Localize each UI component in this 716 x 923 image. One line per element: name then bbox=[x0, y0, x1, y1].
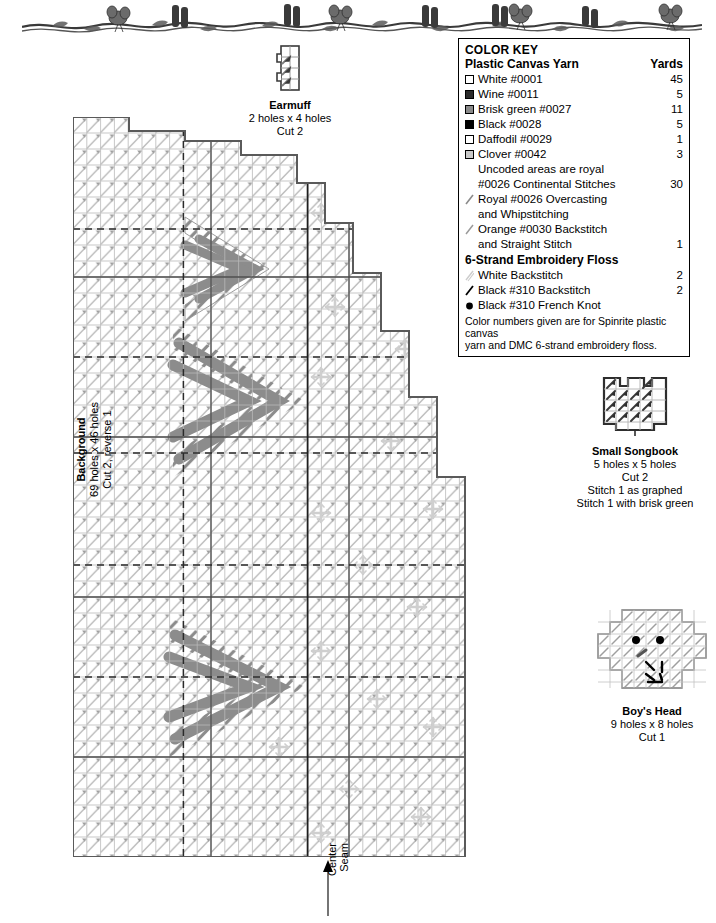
center-seam-line-2: Seam bbox=[338, 843, 350, 872]
key-label: Clover #0042 bbox=[478, 147, 677, 162]
key-label: Wine #0011 bbox=[478, 87, 677, 102]
key-label: White Backstitch bbox=[478, 268, 677, 283]
color-key-note-line2: yarn and DMC 6-strand embroidery floss. bbox=[465, 339, 683, 351]
earmuff-chart-icon bbox=[267, 42, 313, 94]
color-key-title: COLOR KEY bbox=[465, 43, 683, 57]
key-yards: 30 bbox=[670, 177, 683, 192]
center-seam-annotation: Center Seam bbox=[300, 858, 390, 922]
key-row-white: White #0001 45 bbox=[465, 72, 683, 87]
french-knot-eye-left bbox=[632, 636, 640, 644]
songbook-note-2: Stitch 1 with brisk green bbox=[560, 497, 710, 510]
key-label: Black #310 French Knot bbox=[478, 298, 683, 313]
vine-floral-border-icon bbox=[22, 0, 702, 38]
key-row-royal-overcasting-line2: and Whipstitching bbox=[465, 207, 683, 222]
background-size: 69 holes x 46 holes bbox=[88, 370, 101, 530]
boys-head-size: 9 holes x 8 holes bbox=[588, 718, 716, 731]
key-yards: 5 bbox=[677, 117, 683, 132]
songbook-title: Small Songbook bbox=[560, 445, 710, 458]
center-seam-label: Center Seam bbox=[326, 843, 350, 876]
yards-header: Yards bbox=[650, 57, 683, 72]
key-row-orange-backstitch-line2: and Straight Stitch 1 bbox=[465, 237, 683, 252]
background-chart-graph bbox=[73, 117, 473, 857]
key-row-uncoded-line1: Uncoded areas are royal bbox=[465, 162, 683, 177]
key-yards: 45 bbox=[670, 72, 683, 87]
boys-head-cut: Cut 1 bbox=[588, 731, 716, 744]
key-label: Uncoded areas are royal bbox=[478, 162, 683, 177]
color-key-note-line1: Color numbers given are for Spinrite pla… bbox=[465, 315, 683, 339]
key-yards: 2 bbox=[677, 283, 683, 298]
key-row-black-french-knot: Black #310 French Knot bbox=[465, 298, 683, 313]
color-key-note: Color numbers given are for Spinrite pla… bbox=[465, 315, 683, 351]
key-row-uncoded-line2: #0026 Continental Stitches 30 bbox=[465, 177, 683, 192]
key-row-black: Black #0028 5 bbox=[465, 117, 683, 132]
background-chart-label: Background 69 holes x 46 holes Cut 2, re… bbox=[75, 370, 114, 530]
boys-head-chart-icon bbox=[596, 604, 708, 700]
key-yards: 5 bbox=[677, 87, 683, 102]
key-row-wine: Wine #0011 5 bbox=[465, 87, 683, 102]
piece-small-songbook: Small Songbook 5 holes x 5 holes Cut 2 S… bbox=[560, 372, 710, 510]
songbook-note-1: Stitch 1 as graphed bbox=[560, 484, 710, 497]
small-songbook-chart-icon bbox=[596, 372, 674, 440]
key-label: and Whipstitching bbox=[478, 207, 683, 222]
white-swatch bbox=[465, 75, 474, 84]
brisk-green-swatch bbox=[465, 105, 474, 114]
key-row-clover: Clover #0042 3 bbox=[465, 147, 683, 162]
key-yards: 11 bbox=[671, 102, 683, 117]
boys-head-title: Boy's Head bbox=[588, 705, 716, 718]
key-label: #0026 Continental Stitches bbox=[478, 177, 670, 192]
yarn-section-label: Plastic Canvas Yarn bbox=[465, 57, 579, 72]
key-yards: 1 bbox=[677, 132, 683, 147]
key-label: Brisk green #0027 bbox=[478, 102, 671, 117]
key-label: Orange #0030 Backstitch bbox=[478, 222, 683, 237]
color-key-box: COLOR KEY Plastic Canvas Yarn Yards Whit… bbox=[458, 38, 690, 357]
key-row-white-backstitch: White Backstitch 2 bbox=[465, 268, 683, 283]
background-chart bbox=[73, 117, 473, 857]
wine-swatch bbox=[465, 90, 474, 99]
key-yards: 3 bbox=[677, 147, 683, 162]
background-cut: Cut 2, reverse 1 bbox=[101, 370, 114, 530]
key-yards: 2 bbox=[677, 268, 683, 283]
decorative-vine-banner bbox=[22, 0, 702, 38]
key-label: Royal #0026 Overcasting bbox=[478, 192, 683, 207]
key-label: Black #0028 bbox=[478, 117, 677, 132]
background-title: Background bbox=[75, 370, 88, 530]
key-row-brisk-green: Brisk green #0027 11 bbox=[465, 102, 683, 117]
key-label: Daffodil #0029 bbox=[478, 132, 677, 147]
french-knot-eye-right bbox=[656, 636, 664, 644]
floss-section-label: 6-Strand Embroidery Floss bbox=[465, 252, 683, 268]
songbook-cut: Cut 2 bbox=[560, 471, 710, 484]
center-seam-line-1: Center bbox=[326, 843, 338, 876]
key-label: White #0001 bbox=[478, 72, 670, 87]
key-label: and Straight Stitch bbox=[478, 237, 677, 252]
color-key-yarn-header: Plastic Canvas Yarn Yards bbox=[465, 57, 683, 72]
key-row-daffodil: Daffodil #0029 1 bbox=[465, 132, 683, 147]
key-row-black-backstitch: Black #310 Backstitch 2 bbox=[465, 283, 683, 298]
key-label: Black #310 Backstitch bbox=[478, 283, 677, 298]
earmuff-title: Earmuff bbox=[232, 99, 348, 112]
songbook-size: 5 holes x 5 holes bbox=[560, 458, 710, 471]
piece-boys-head: Boy's Head 9 holes x 8 holes Cut 1 bbox=[588, 604, 716, 744]
key-row-orange-backstitch: Orange #0030 Backstitch bbox=[465, 222, 683, 237]
key-yards: 1 bbox=[677, 237, 683, 252]
key-row-royal-overcasting: Royal #0026 Overcasting bbox=[465, 192, 683, 207]
